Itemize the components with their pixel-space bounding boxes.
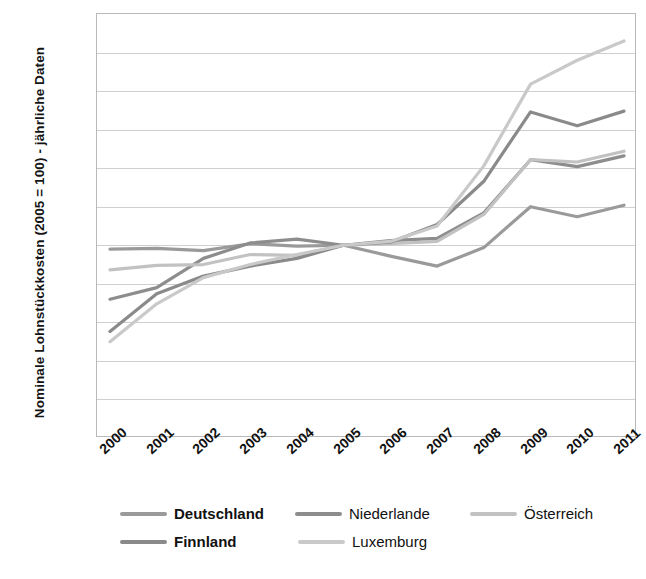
legend-swatch: [298, 540, 345, 544]
legend-label: Deutschland: [174, 505, 264, 522]
series-line-luxemburg: [110, 41, 624, 342]
legend-swatch: [295, 512, 342, 516]
series-line-finnland: [110, 111, 624, 331]
legend-label: Österreich: [524, 505, 593, 522]
y-axis-title: Nominale Lohnstückkosten (2005 = 100) - …: [32, 0, 47, 468]
series-lines: [97, 14, 637, 438]
legend-item-deutschland[interactable]: Deutschland: [120, 505, 295, 522]
plot-area: [96, 13, 636, 437]
line-chart: Nominale Lohnstückkosten (2005 = 100) - …: [0, 0, 646, 579]
legend-swatch: [120, 512, 167, 516]
legend-item-sterreich[interactable]: Österreich: [470, 505, 645, 522]
legend-item-luxemburg[interactable]: Luxemburg: [298, 533, 476, 550]
chart-legend: DeutschlandNiederlandeÖsterreich Finnlan…: [120, 505, 640, 561]
series-line-niederlande: [110, 156, 624, 299]
legend-row-1: DeutschlandNiederlandeÖsterreich: [120, 505, 640, 522]
legend-label: Finnland: [174, 533, 237, 550]
legend-swatch: [470, 512, 517, 516]
series-line-deutschland: [110, 205, 624, 266]
legend-row-2: FinnlandLuxemburg: [120, 533, 640, 550]
legend-swatch: [120, 540, 167, 544]
legend-label: Niederlande: [349, 505, 430, 522]
legend-item-finnland[interactable]: Finnland: [120, 533, 298, 550]
legend-item-niederlande[interactable]: Niederlande: [295, 505, 470, 522]
legend-label: Luxemburg: [352, 533, 427, 550]
